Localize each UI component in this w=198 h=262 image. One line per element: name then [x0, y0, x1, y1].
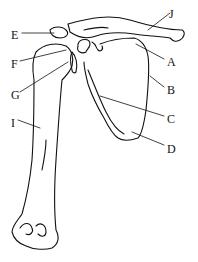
label-g: G — [11, 89, 20, 101]
label-f: F — [11, 58, 18, 70]
scapula — [84, 38, 149, 140]
label-j: J — [169, 8, 174, 20]
label-a: A — [167, 56, 176, 68]
coracoid — [78, 40, 90, 53]
label-d: D — [167, 143, 176, 155]
humerus-condyles — [20, 224, 46, 237]
glenoid — [71, 52, 77, 73]
acromion — [50, 27, 68, 38]
humerus-shaft-line — [42, 140, 46, 170]
leader-lines — [18, 13, 170, 145]
clavicle-detail — [84, 27, 108, 30]
label-b: B — [167, 84, 175, 96]
shoulder-diagram — [0, 0, 198, 262]
humerus — [12, 44, 73, 249]
label-i: I — [11, 117, 15, 129]
label-e: E — [11, 29, 18, 41]
label-c: C — [167, 113, 175, 125]
